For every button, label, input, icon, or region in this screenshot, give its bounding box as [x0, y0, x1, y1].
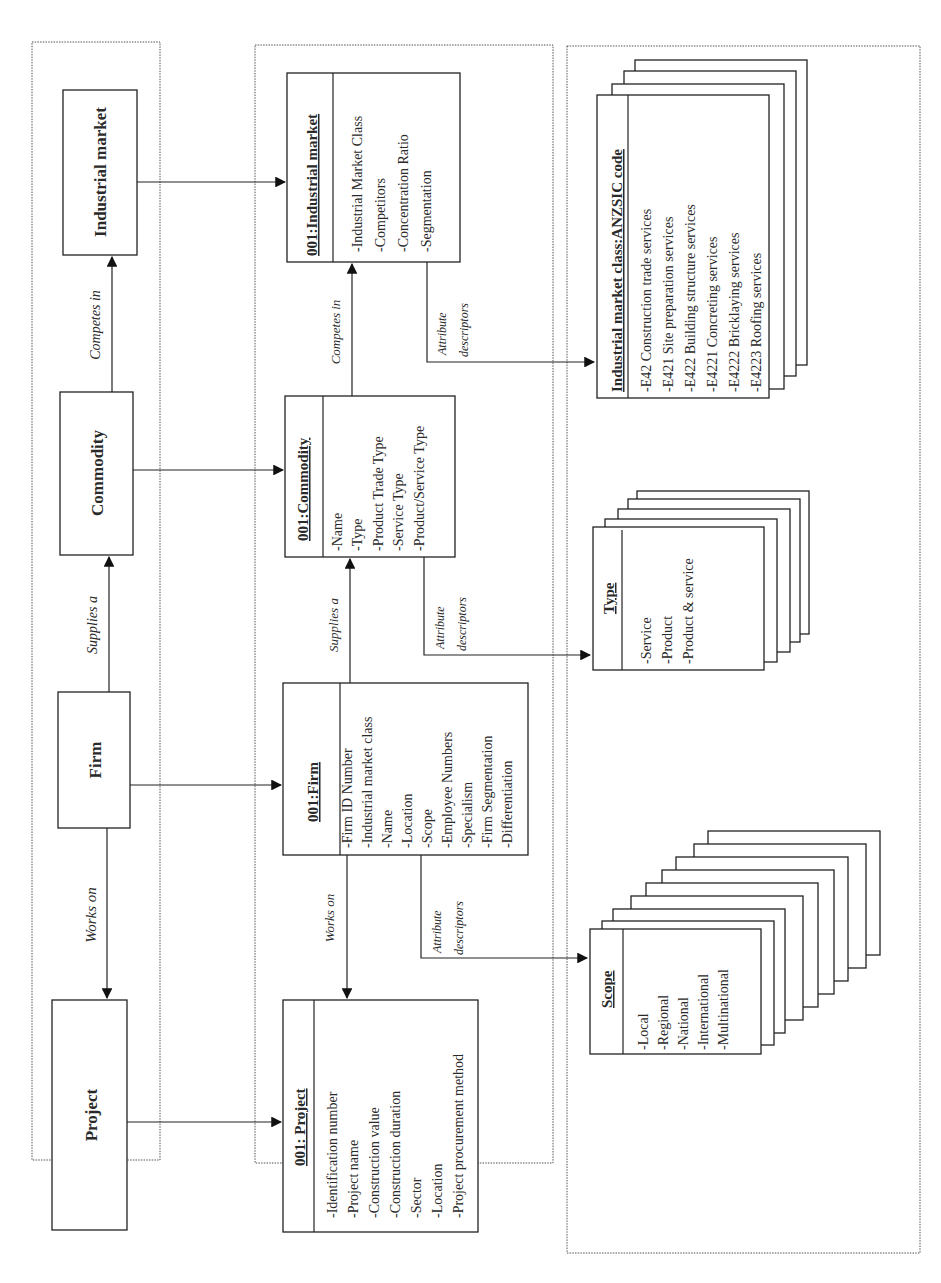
class-attribute: -Sector — [409, 1177, 424, 1218]
class-attribute: -Location — [430, 1164, 445, 1218]
relation-label-works-on: Works on — [83, 887, 99, 943]
entity-firm[interactable]: Firm — [58, 692, 130, 828]
stack-title: Scope — [599, 970, 615, 1008]
class-commodity[interactable]: 001:Commodity -Name -Type -Product Trade… — [285, 396, 455, 557]
class-attribute: -Name — [330, 513, 345, 551]
relation-label-supplies-a: Supplies a — [85, 596, 100, 654]
svg-text:Attribute: Attribute — [430, 910, 444, 954]
class-attribute: -Construction value — [367, 1107, 382, 1218]
stack-front-card — [593, 527, 764, 670]
stack-item: -E4222 Bricklaying services — [727, 233, 742, 392]
class-attribute: -Location — [400, 794, 415, 848]
class-title: 001:Industrial market — [304, 114, 320, 256]
stack-item: -Regional — [656, 995, 671, 1050]
stack-item: -E42 Construction trade services — [639, 209, 654, 392]
class-attribute: -Identification number — [325, 1091, 340, 1218]
entity-commodity[interactable]: Commodity — [60, 392, 133, 555]
stack-item: -E4223 Roofing services — [749, 253, 764, 392]
class-attribute: -Service Type — [391, 473, 406, 551]
class-firm[interactable]: 001:Firm -Firm ID Number -Industrial mar… — [283, 683, 528, 855]
class-attribute: -Competitors — [373, 178, 388, 252]
class-attribute: -Product/Service Type — [412, 426, 427, 551]
stack-industrial-market-class[interactable]: Industrial market class:ANZSIC code -E42… — [597, 60, 807, 398]
class-relation-label-competes-in: Competes in — [328, 300, 343, 365]
class-attribute: -Product Trade Type — [371, 436, 386, 551]
class-attribute: -Differentiation — [500, 760, 515, 848]
entity-label: Industrial market — [91, 107, 110, 237]
class-relation-label-works-on: Works on — [322, 894, 337, 942]
class-attribute: -Employee Numbers — [440, 732, 455, 848]
class-attribute: -Type — [350, 519, 365, 551]
entity-label: Firm — [86, 742, 105, 779]
svg-text:descriptors: descriptors — [452, 901, 466, 955]
stack-title: Type — [601, 582, 617, 614]
class-attribute: -Firm Segmentation — [480, 736, 495, 848]
class-attribute: -Project name — [346, 1140, 361, 1218]
descriptor-connector-firm: Attribute descriptors — [421, 855, 587, 958]
svg-text:descriptors: descriptors — [455, 597, 469, 651]
class-attribute: -Name — [380, 810, 395, 848]
stack-title: Industrial market class:ANZSIC code — [609, 149, 625, 392]
entity-industrial-market[interactable]: Industrial market — [63, 90, 137, 255]
stack-scope[interactable]: Scope -Local -Regional -National -Intern… — [590, 831, 880, 1054]
stack-item: -Product & service — [681, 558, 696, 664]
stack-item: -Local — [636, 1013, 651, 1050]
class-diagram-canvas: Industrial market Commodity Firm Project… — [0, 0, 941, 1283]
class-attribute: -Specialism — [460, 782, 475, 848]
entity-project[interactable]: Project — [52, 1000, 127, 1230]
class-title: 001:Commodity — [295, 437, 311, 541]
class-industrial-market[interactable]: 001:Industrial market -Industrial Market… — [287, 73, 460, 262]
entity-label: Project — [82, 1088, 101, 1141]
class-attribute: -Segmentation — [419, 170, 434, 252]
stack-item: -E422 Building structure services — [683, 204, 698, 392]
descriptor-connector-commodity: Attribute descriptors — [424, 557, 590, 655]
class-attribute: -Scope — [420, 809, 435, 848]
class-attribute: -Concentration Ratio — [396, 134, 411, 252]
class-attribute: -Project procurement method — [451, 1054, 466, 1218]
class-relation-label-supplies-a: Supplies a — [326, 598, 341, 652]
stack-item: -International — [696, 974, 711, 1050]
stack-item: -E4221 Concreting services — [705, 236, 720, 392]
entity-label: Commodity — [88, 430, 107, 516]
stack-item: -Multinational — [716, 969, 731, 1050]
svg-text:Attribute: Attribute — [433, 606, 447, 650]
class-attribute: -Firm ID Number — [340, 748, 355, 848]
svg-text:descriptors: descriptors — [457, 303, 471, 357]
class-attribute: -Industrial market class — [360, 717, 375, 848]
class-title: 001:Firm — [305, 762, 321, 822]
stack-item: -National — [676, 997, 691, 1050]
class-title: 001: Project — [292, 1088, 308, 1166]
stack-item: -Service — [639, 617, 654, 664]
stack-item: -E421 Site preparation services — [661, 217, 676, 392]
class-project[interactable]: 001: Project -Identification number -Pro… — [283, 1000, 478, 1232]
stack-type[interactable]: Type -Service -Product -Product & servic… — [593, 491, 809, 670]
svg-text:Attribute: Attribute — [435, 312, 449, 356]
descriptor-connector-industrial-market: Attribute descriptors — [427, 262, 594, 362]
class-attribute: -Industrial Market Class — [350, 116, 365, 252]
relation-label-competes-in: Competes in — [88, 290, 103, 360]
stack-item: -Product — [660, 616, 675, 664]
class-attribute: -Construction duration — [388, 1091, 403, 1218]
